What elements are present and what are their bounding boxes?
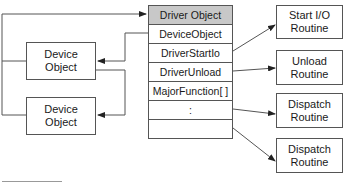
- field-major-function: MajorFunction[ ]: [149, 82, 232, 101]
- driver-object-header: Driver Object: [149, 6, 232, 25]
- device-object-1: Device Object: [26, 42, 96, 80]
- device-object-2: Device Object: [26, 97, 96, 135]
- start-io-routine: Start I/O Routine: [276, 5, 343, 39]
- dispatch-routine-1: Dispatch Routine: [276, 93, 343, 128]
- field-device-object: DeviceObject: [149, 25, 232, 44]
- driver-object-table: Driver Object DeviceObject DriverStartIo…: [148, 5, 233, 139]
- field-ellipsis: :: [149, 101, 232, 120]
- field-driver-start-io: DriverStartIo: [149, 44, 232, 63]
- unload-routine: Unload Routine: [276, 50, 343, 85]
- caption-divider: [2, 181, 62, 182]
- field-driver-unload: DriverUnload: [149, 63, 232, 82]
- field-empty: [149, 120, 232, 139]
- dispatch-routine-2: Dispatch Routine: [276, 138, 343, 173]
